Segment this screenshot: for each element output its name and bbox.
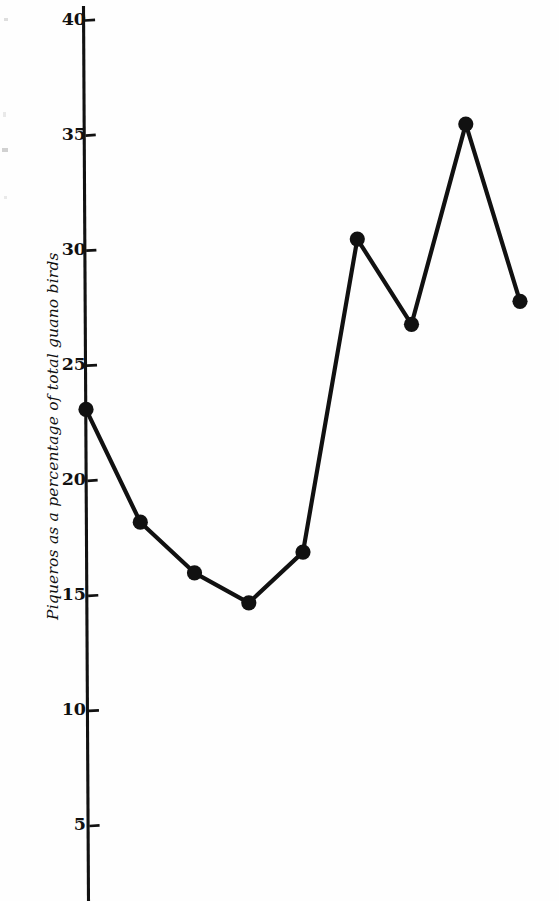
y-tick-mark-20 xyxy=(87,480,97,481)
data-point xyxy=(187,565,202,580)
y-axis-spine xyxy=(84,6,89,901)
plot-area xyxy=(0,0,559,901)
data-point xyxy=(350,232,365,247)
data-point xyxy=(78,402,93,417)
data-markers xyxy=(78,117,527,611)
data-point xyxy=(295,545,310,560)
y-tick-mark-5 xyxy=(89,825,99,826)
y-tick-mark-25 xyxy=(87,365,97,366)
y-tick-mark-15 xyxy=(88,595,98,596)
data-point xyxy=(133,515,148,530)
y-tick-mark-10 xyxy=(89,710,99,711)
chart-figure: Piqueros as a percentage of total guano … xyxy=(0,0,559,901)
data-point xyxy=(404,317,419,332)
data-point xyxy=(512,294,527,309)
y-tick-mark-40 xyxy=(85,20,95,21)
y-tick-mark-30 xyxy=(86,250,96,251)
data-line xyxy=(86,124,520,603)
y-tick-mark-35 xyxy=(86,135,96,136)
data-point xyxy=(241,595,256,610)
data-point xyxy=(458,117,473,132)
